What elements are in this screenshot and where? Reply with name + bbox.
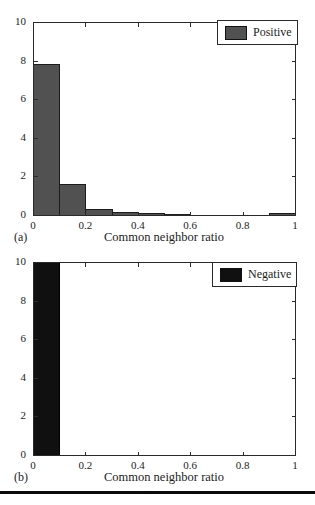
panel-label-b: (b)	[14, 470, 28, 484]
panel-label-a: (a)	[14, 230, 27, 244]
histogram-bar	[34, 65, 60, 216]
bottom-rule	[0, 491, 315, 494]
histogram-bar	[34, 263, 60, 456]
figure-page: Positive (a) Common neighbor ratio 00.20…	[0, 0, 315, 505]
legend-label: Positive	[253, 26, 292, 39]
histogram-negative-plot	[0, 253, 315, 505]
legend-label: Negative	[248, 268, 291, 281]
histogram-bar	[60, 185, 86, 216]
legend-negative: Negative	[212, 262, 297, 287]
histogram-negative: Negative (b) Common neighbor ratio 00.20…	[0, 253, 315, 505]
x-axis-label-a: Common neighbor ratio	[33, 230, 295, 244]
legend-positive: Positive	[217, 20, 298, 45]
x-axis-label-b: Common neighbor ratio	[33, 470, 295, 484]
legend-swatch	[225, 26, 247, 40]
histogram-positive: Positive (a) Common neighbor ratio 00.20…	[0, 0, 315, 253]
legend-swatch	[220, 268, 242, 282]
histogram-bar	[86, 209, 112, 215]
plot-frame	[34, 263, 296, 456]
